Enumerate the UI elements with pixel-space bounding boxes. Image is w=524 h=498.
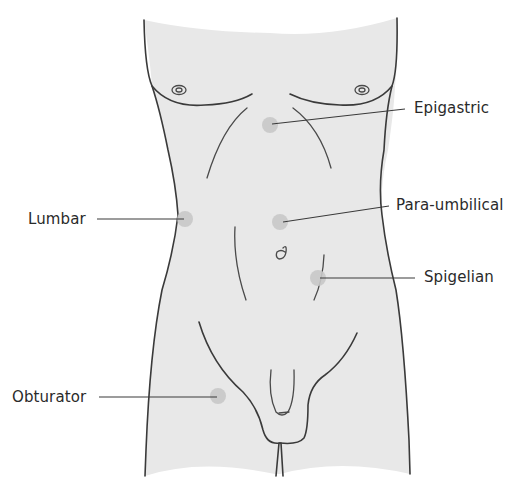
label-para-umbilical: Para-umbilical <box>396 198 503 213</box>
epigastric-hernia-spot <box>262 117 278 133</box>
obturator-hernia-spot <box>210 388 226 404</box>
label-lumbar: Lumbar <box>28 212 86 227</box>
hernia-sites-diagram: Epigastric Para-umbilical Spigelian Lumb… <box>0 0 524 498</box>
label-epigastric: Epigastric <box>414 101 489 116</box>
label-obturator: Obturator <box>12 390 86 405</box>
label-spigelian: Spigelian <box>424 270 494 285</box>
torso-illustration <box>0 0 524 498</box>
